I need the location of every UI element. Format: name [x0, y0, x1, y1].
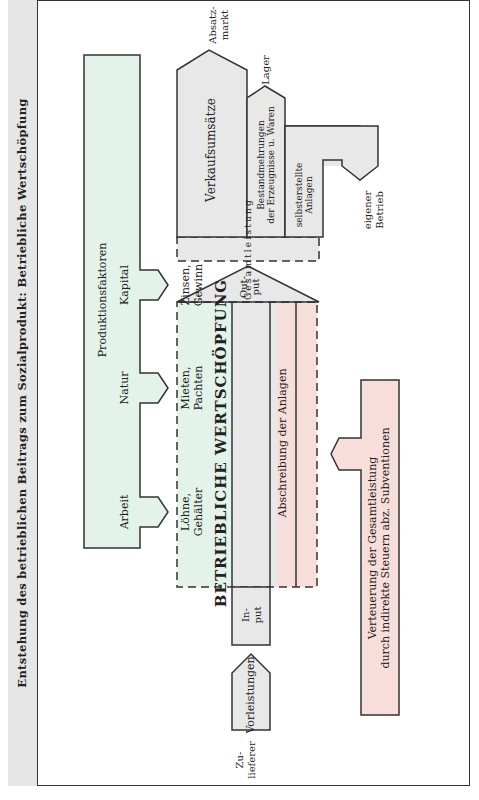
factor-arbeit: Arbeit [119, 495, 132, 530]
bestandmehrungen-label: Bestandmehrungender Erzeugnisse u. Waren [256, 106, 277, 224]
value-added-label: BETRIEBLICHE WERTSCHÖPFUNG [213, 279, 230, 607]
production-factors-heading: Produktionsfaktoren [97, 243, 110, 358]
factor-kapital: Kapital [119, 265, 132, 305]
tax-block [328, 397, 344, 432]
diagram-shapes [0, 0, 479, 800]
component-zinsen: Zinsen,Gewinn [180, 264, 205, 306]
gesamtleistung-label: Gesamtleistung [243, 198, 253, 300]
verkaufsumsaetze-label: Verkaufsumsätze [205, 98, 219, 202]
vorleistungen-label: Vorleistungen [245, 656, 258, 733]
zulieferer-label: Zu-lieferer [234, 741, 257, 778]
component-loehne: Löhne,Gehälter [180, 488, 205, 537]
depreciation-label: Abschreibung der Anlagen [277, 369, 290, 518]
input-label: In-put [240, 607, 263, 624]
component-mieten: Mieten,Pachten [180, 366, 205, 411]
tax-label: Verteuerung der Gesamtleistungdurch indi… [367, 427, 392, 668]
absatzmarkt-label: Absatz-markt [207, 6, 230, 43]
factor-natur: Natur [119, 372, 132, 405]
lager-label: Lager [260, 55, 272, 85]
selbsterstellte-label: selbsterstellteAnlagen [294, 163, 315, 228]
eigener-betrieb-label: eigenerBetrieb [362, 191, 385, 230]
